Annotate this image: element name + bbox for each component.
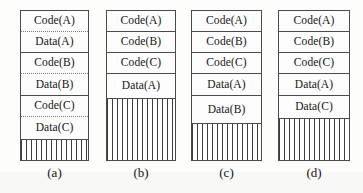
free-memory-region: [279, 118, 349, 161]
memory-box-c: Code(A)Code(B)Code(C)Data(A)Data(B): [191, 10, 262, 161]
memory-segment: Code(C): [21, 96, 88, 117]
memory-diagram-d: Code(A)Code(B)Code(C)Data(A)Data(C)(d): [278, 0, 350, 193]
free-memory-region: [192, 123, 261, 161]
memory-layout-figure: Code(A)Data(A)Code(B)Data(B)Code(C)Data(…: [0, 0, 363, 193]
memory-segment: Data(A): [279, 74, 349, 96]
memory-diagram-c: Code(A)Code(B)Code(C)Data(A)Data(B)(c): [191, 0, 262, 193]
diagram-caption-a: (a): [20, 166, 89, 179]
memory-box-b: Code(A)Code(B)Code(C)Data(A): [106, 10, 176, 161]
free-memory-region: [21, 139, 88, 161]
diagram-caption-c: (c): [191, 166, 262, 179]
memory-segment: Data(B): [21, 74, 88, 96]
memory-box-d: Code(A)Code(B)Code(C)Data(A)Data(C): [278, 10, 350, 161]
memory-segment: Code(A): [21, 11, 88, 32]
memory-segment: Code(A): [192, 11, 261, 32]
memory-segment: Data(A): [21, 32, 88, 53]
memory-segment: Code(C): [107, 53, 175, 74]
memory-box-a: Code(A)Data(A)Code(B)Data(B)Code(C)Data(…: [20, 10, 89, 161]
memory-segment: Code(B): [279, 32, 349, 53]
memory-segment: Data(A): [192, 74, 261, 96]
memory-segment: Data(C): [21, 117, 88, 139]
free-memory-region: [107, 98, 175, 161]
memory-segment: Code(C): [279, 53, 349, 74]
diagram-caption-b: (b): [106, 166, 176, 179]
memory-segment: Code(C): [192, 53, 261, 74]
memory-diagram-a: Code(A)Data(A)Code(B)Data(B)Code(C)Data(…: [20, 0, 89, 193]
diagram-caption-d: (d): [278, 166, 350, 179]
memory-segment: Code(B): [192, 32, 261, 53]
memory-segment: Data(B): [192, 96, 261, 123]
memory-segment: Code(B): [107, 32, 175, 53]
memory-segment: Data(C): [279, 96, 349, 118]
memory-segment: Code(B): [21, 53, 88, 74]
memory-segment: Data(A): [107, 74, 175, 98]
memory-segment: Code(A): [107, 11, 175, 32]
memory-segment: Code(A): [279, 11, 349, 32]
memory-diagram-b: Code(A)Code(B)Code(C)Data(A)(b): [106, 0, 176, 193]
